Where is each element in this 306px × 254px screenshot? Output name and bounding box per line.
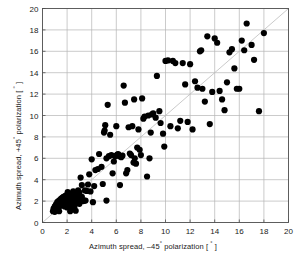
svg-text:16: 16 [235, 227, 244, 236]
svg-text:20: 20 [284, 227, 293, 236]
data-points [50, 20, 267, 215]
svg-text:4: 4 [34, 176, 39, 185]
svg-text:0: 0 [34, 219, 39, 228]
svg-text:4: 4 [89, 227, 94, 236]
scatter-plot-figure: 0246810121416182002468101214161820 Azimu… [0, 0, 306, 254]
y-axis-label: Azimuth spread, +45° polarization [ ° ] [12, 82, 23, 210]
svg-text:18: 18 [30, 26, 39, 35]
svg-text:2: 2 [34, 197, 39, 206]
svg-text:10: 10 [161, 227, 170, 236]
svg-text:20: 20 [30, 5, 39, 14]
plot-canvas: 0246810121416182002468101214161820 [0, 0, 306, 254]
svg-text:0: 0 [40, 227, 45, 236]
x-axis-label: Azimuth spread, –45° polarization [ ° ] [0, 240, 306, 251]
svg-text:12: 12 [30, 90, 39, 99]
svg-text:18: 18 [259, 227, 268, 236]
y-axis-label-container: Azimuth spread, +45° polarization [ ° ] [0, 0, 16, 230]
svg-text:8: 8 [34, 133, 39, 142]
svg-text:6: 6 [34, 154, 39, 163]
svg-text:16: 16 [30, 47, 39, 56]
svg-text:10: 10 [30, 112, 39, 121]
svg-text:8: 8 [139, 227, 144, 236]
svg-text:2: 2 [65, 227, 70, 236]
svg-text:14: 14 [30, 69, 39, 78]
svg-text:12: 12 [186, 227, 195, 236]
svg-text:6: 6 [114, 227, 119, 236]
svg-text:14: 14 [210, 227, 219, 236]
